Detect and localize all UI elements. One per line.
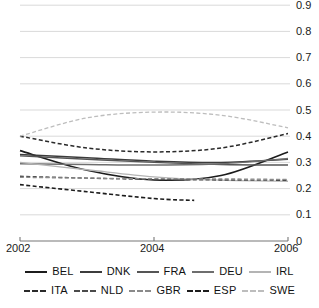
- legend-label-bel: BEL: [52, 266, 73, 277]
- legend-row-2: ITANLDGBRESPSWE: [0, 281, 319, 300]
- y-tick-label-0.5: 0.5: [296, 105, 311, 116]
- series-line-esp: [20, 185, 194, 201]
- chart-figure: 00.10.20.30.40.50.60.70.80.9 20022004200…: [0, 0, 319, 308]
- legend-label-nld: NLD: [101, 285, 124, 296]
- legend-item-irl[interactable]: IRL: [249, 266, 294, 277]
- y-tick-label-0.7: 0.7: [296, 52, 311, 63]
- legend-label-esp: ESP: [214, 285, 237, 296]
- legend-item-dnk[interactable]: DNK: [80, 266, 131, 277]
- legend-item-gbr[interactable]: GBR: [129, 285, 180, 296]
- legend-item-bel[interactable]: BEL: [25, 266, 73, 277]
- legend-swatch-deu-icon: [192, 271, 214, 273]
- y-tick-label-0.2: 0.2: [296, 183, 311, 194]
- x-tick-label-2002: 2002: [6, 243, 30, 254]
- y-tick-label-0.3: 0.3: [296, 157, 311, 168]
- legend-item-swe[interactable]: SWE: [242, 285, 295, 296]
- legend-item-nld[interactable]: NLD: [74, 285, 124, 296]
- legend-swatch-esp-icon: [187, 290, 209, 292]
- legend-label-deu: DEU: [219, 266, 243, 277]
- legend-item-deu[interactable]: DEU: [192, 266, 243, 277]
- legend-row-1: BELDNKFRADEUIRL: [0, 262, 319, 281]
- y-tick-label-0.8: 0.8: [296, 26, 311, 37]
- legend-swatch-fra-icon: [137, 271, 159, 273]
- y-tick-label-0.6: 0.6: [296, 78, 311, 89]
- x-tick-label-2004: 2004: [140, 243, 164, 254]
- legend-item-ita[interactable]: ITA: [24, 285, 68, 296]
- legend-label-fra: FRA: [164, 266, 187, 277]
- legend-label-gbr: GBR: [156, 285, 180, 296]
- y-tick-label-0.9: 0.9: [296, 0, 311, 11]
- y-tick-label-0.1: 0.1: [296, 209, 311, 220]
- legend-swatch-bel-icon: [25, 271, 47, 273]
- series-line-gbr: [20, 177, 288, 179]
- legend-label-swe: SWE: [269, 285, 295, 296]
- y-tick-label-0.4: 0.4: [296, 131, 311, 142]
- legend-swatch-gbr-icon: [129, 290, 151, 292]
- legend-item-fra[interactable]: FRA: [137, 266, 187, 277]
- series-line-swe: [20, 112, 288, 136]
- plot-area: [0, 0, 319, 250]
- legend-swatch-dnk-icon: [80, 271, 102, 273]
- legend-swatch-irl-icon: [249, 271, 271, 273]
- chart-legend: BELDNKFRADEUIRLITANLDGBRESPSWE: [0, 262, 319, 300]
- x-tick-label-2006: 2006: [274, 243, 298, 254]
- line-chart-svg: [0, 0, 319, 250]
- legend-swatch-swe-icon: [242, 290, 264, 292]
- legend-label-dnk: DNK: [107, 266, 131, 277]
- legend-label-ita: ITA: [51, 285, 68, 296]
- legend-item-esp[interactable]: ESP: [187, 285, 237, 296]
- legend-swatch-nld-icon: [74, 290, 96, 292]
- legend-swatch-ita-icon: [24, 290, 46, 292]
- legend-label-irl: IRL: [276, 266, 294, 277]
